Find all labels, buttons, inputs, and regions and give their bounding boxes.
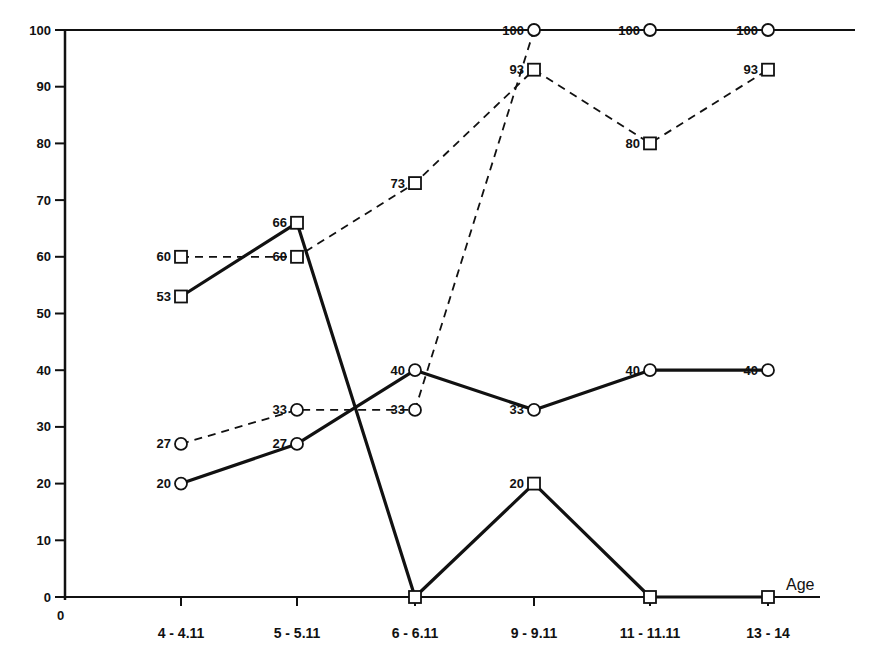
circle-marker [762,364,774,376]
y-tick-label: 30 [37,419,51,434]
square-marker [409,177,421,189]
circle-marker [291,404,303,416]
series-solid-square [175,217,774,603]
square-marker [175,290,187,302]
data-label: 100 [502,23,524,38]
square-marker [644,591,656,603]
circle-marker [762,24,774,36]
circle-marker [528,24,540,36]
y-tick-label: 90 [37,79,51,94]
circle-marker [409,364,421,376]
square-marker [291,217,303,229]
square-marker [528,64,540,76]
y-tick-label: 20 [37,476,51,491]
series-dashed-square [175,64,774,263]
circle-marker [644,364,656,376]
square-marker [291,251,303,263]
y-tick-label: 70 [37,193,51,208]
data-label: 93 [510,62,524,77]
square-marker [762,64,774,76]
circle-marker [409,404,421,416]
data-label: 40 [744,363,758,378]
data-label: 66 [273,215,287,230]
data-label: 27 [273,436,287,451]
point-labels: 2027403340402733331001001005366206060739… [157,23,758,492]
x-tick-label: 6 - 6.11 [392,625,439,641]
series-solid-circle [175,364,774,489]
circle-marker [175,438,187,450]
y-tick-label: 40 [37,363,51,378]
data-label: 20 [157,476,171,491]
data-label: 73 [391,176,405,191]
data-label: 53 [157,289,171,304]
circle-marker [528,404,540,416]
x-tick-label: 13 - 14 [746,625,790,641]
x-tick-label: 11 - 11.11 [620,625,681,641]
data-label: 40 [391,363,405,378]
data-label: 20 [510,476,524,491]
x-axis-title: Age [786,576,815,593]
data-label: 100 [618,23,640,38]
data-label: 60 [157,249,171,264]
data-label: 33 [273,402,287,417]
data-label: 60 [273,249,287,264]
x-tick-label: 9 - 9.11 [511,625,558,641]
y-tick-label: 80 [37,136,51,151]
series-line [181,70,768,257]
data-label: 40 [626,363,640,378]
y-tick-label: 50 [37,306,51,321]
data-label: 80 [626,136,640,151]
circle-marker [644,24,656,36]
origin-label: 0 [57,608,64,623]
x-tick-label: 4 - 4.11 [158,625,205,641]
y-tick-label: 10 [37,533,51,548]
y-tick-label: 100 [29,23,51,38]
data-label: 33 [391,402,405,417]
data-label: 93 [744,62,758,77]
square-marker [762,591,774,603]
series-line [181,30,768,444]
series-line [181,370,768,483]
data-label: 27 [157,436,171,451]
data-label: 33 [510,402,524,417]
square-marker [644,137,656,149]
square-marker [409,591,421,603]
square-marker [528,478,540,490]
series-layer [175,24,774,603]
series-dashed-circle [175,24,774,450]
line-chart: 01020304050607080901004 - 4.115 - 5.116 … [0,0,875,660]
square-marker [175,251,187,263]
series-line [181,223,768,597]
circle-marker [291,438,303,450]
y-tick-label: 60 [37,249,51,264]
y-tick-label: 0 [44,590,51,605]
data-label: 100 [736,23,758,38]
x-tick-label: 5 - 5.11 [274,625,321,641]
circle-marker [175,478,187,490]
axes: 01020304050607080901004 - 4.115 - 5.116 … [29,23,855,642]
